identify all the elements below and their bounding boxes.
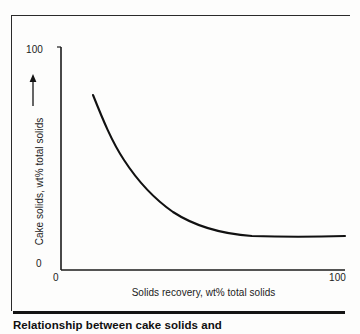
y-axis-title: Cake solids, wt% total solids (34, 102, 45, 262)
caption-divider (13, 311, 345, 314)
data-curve (93, 95, 345, 237)
figure-caption: Relationship between cake solids and (13, 318, 350, 332)
x-axis-tick-label-right: 100 (329, 272, 346, 283)
x-axis-title: Solids recovery, wt% total solids (61, 287, 346, 298)
figure-root: 100 0 0 100 Cake solids, wt% total solid… (0, 0, 360, 334)
caption-block: Relationship between cake solids and (13, 311, 350, 332)
x-axis-tick-label-left: 0 (53, 272, 59, 283)
plot-canvas (0, 0, 360, 334)
y-axis-tick-label-top: 100 (26, 44, 43, 55)
